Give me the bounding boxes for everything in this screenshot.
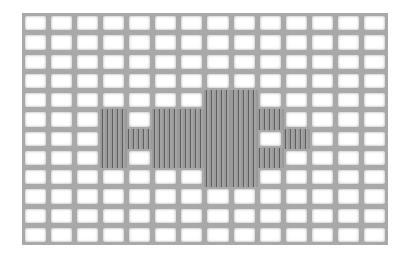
mesh-hole-cell (286, 93, 307, 107)
mesh-hole-cell (103, 209, 124, 223)
mesh-hole-cell (155, 74, 176, 88)
mesh-hole-cell (51, 93, 72, 107)
mesh-hole-cell (286, 209, 307, 223)
mesh-hole-cell (338, 112, 359, 126)
mesh-hole-cell (207, 16, 228, 30)
mesh-hole-cell (234, 55, 255, 69)
mesh-hole-cell (155, 93, 176, 107)
mesh-hole-cell (312, 151, 333, 165)
mesh-hole-cell (286, 16, 307, 30)
mesh-hole-cell (260, 209, 281, 223)
mesh-hole-cell (364, 16, 385, 30)
mesh-hole-cell (51, 228, 72, 242)
mesh-hole-cell (364, 151, 385, 165)
mesh-hole-cell (312, 132, 333, 146)
mesh-hole-cell (312, 16, 333, 30)
mesh-hole-cell (312, 112, 333, 126)
solid-block-cell (231, 129, 258, 149)
mesh-hole-cell (181, 55, 202, 69)
mesh-hole-cell (260, 93, 281, 107)
mesh-hole-cell (364, 189, 385, 203)
mesh-hole-cell (155, 55, 176, 69)
mesh-hole-cell (181, 16, 202, 30)
mesh-hole-cell (364, 209, 385, 223)
mesh-hole-cell (25, 16, 46, 30)
mesh-hole-cell (312, 170, 333, 184)
mesh-hole-cell (51, 209, 72, 223)
mesh-hole-cell (312, 228, 333, 242)
mesh-hole-cell (338, 151, 359, 165)
mesh-hole-cell (286, 170, 307, 184)
mesh-hole-cell (103, 93, 124, 107)
mesh-hole-cell (338, 74, 359, 88)
mesh-hole-cell (129, 93, 150, 107)
mesh-hole-cell (260, 16, 281, 30)
mesh-hole-cell (234, 228, 255, 242)
solid-block-cell (231, 90, 258, 110)
mesh-hole-cell (364, 35, 385, 49)
solid-block-cell (257, 148, 284, 168)
mesh-hole-cell (103, 228, 124, 242)
mesh-hole-cell (25, 209, 46, 223)
solid-block-cell (152, 148, 179, 168)
mesh-hole-cell (234, 74, 255, 88)
solid-block-cell (100, 148, 127, 168)
mesh-hole-cell (312, 209, 333, 223)
mesh-hole-cell (364, 74, 385, 88)
mesh-hole-cell (129, 170, 150, 184)
mesh-hole-cell (181, 228, 202, 242)
mesh-hole-cell (155, 209, 176, 223)
mesh-hole-cell (260, 132, 281, 146)
mesh-hole-cell (286, 35, 307, 49)
mesh-hole-cell (181, 74, 202, 88)
solid-block-cell (204, 167, 231, 187)
mesh-hole-cell (181, 93, 202, 107)
mesh-hole-cell (286, 55, 307, 69)
mesh-hole-cell (77, 16, 98, 30)
mesh-hole-cell (181, 35, 202, 49)
solid-block-cell (152, 129, 179, 149)
solid-block-cell (178, 148, 205, 168)
mesh-hole-cell (234, 189, 255, 203)
mesh-hole-cell (103, 35, 124, 49)
mesh-hole-cell (129, 151, 150, 165)
mesh-hole-cell (338, 132, 359, 146)
mesh-hole-cell (260, 55, 281, 69)
mesh-hole-cell (25, 151, 46, 165)
mesh-hole-cell (364, 112, 385, 126)
mesh-hole-cell (207, 35, 228, 49)
solid-block-cell (152, 109, 179, 129)
mesh-hole-cell (286, 189, 307, 203)
solid-block-cell (231, 109, 258, 129)
mesh-hole-cell (155, 16, 176, 30)
mesh-hole-cell (286, 228, 307, 242)
mesh-hole-cell (338, 16, 359, 30)
mesh-hole-cell (103, 55, 124, 69)
mesh-hole-cell (129, 209, 150, 223)
mesh-hole-cell (51, 112, 72, 126)
mesh-hole-cell (25, 55, 46, 69)
mesh-hole-cell (51, 74, 72, 88)
mesh-hole-cell (77, 209, 98, 223)
mesh-hole-cell (338, 170, 359, 184)
mesh-hole-cell (25, 93, 46, 107)
mesh-hole-cell (286, 151, 307, 165)
mesh-hole-cell (25, 228, 46, 242)
mesh-hole-cell (77, 55, 98, 69)
mesh-hole-cell (234, 209, 255, 223)
solid-block-cell (231, 167, 258, 187)
mesh-hole-cell (181, 209, 202, 223)
mesh-hole-cell (129, 228, 150, 242)
mesh-hole-cell (103, 189, 124, 203)
solid-block-cell (231, 148, 258, 168)
mesh-hole-cell (77, 74, 98, 88)
mesh-hole-cell (51, 55, 72, 69)
mesh-hole-cell (181, 189, 202, 203)
solid-block-cell (204, 129, 231, 149)
mesh-hole-cell (77, 35, 98, 49)
mesh-hole-cell (260, 74, 281, 88)
mesh-hole-cell (312, 55, 333, 69)
mesh-hole-cell (364, 132, 385, 146)
solid-block-cell (178, 109, 205, 129)
mesh-hole-cell (51, 132, 72, 146)
